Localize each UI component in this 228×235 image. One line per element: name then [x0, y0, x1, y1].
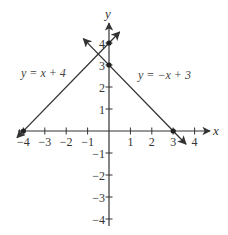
x-axis-label: x: [212, 123, 219, 138]
data-point: [171, 128, 176, 133]
data-point: [21, 128, 26, 133]
coordinate-plane: −4−3−2−112344321−1−2−3−4 x y y = x + 4 y…: [0, 0, 228, 235]
axes: [18, 23, 210, 226]
y-tick-label: −1: [92, 147, 105, 161]
equation-label-line1: y = x + 4: [20, 66, 66, 80]
equation-label-line2: y = −x + 3: [137, 68, 191, 82]
x-tick-label: 1: [127, 135, 133, 149]
x-tick-label: 4: [192, 135, 198, 149]
data-point: [106, 62, 111, 67]
x-tick-label: 3: [170, 135, 176, 149]
data-point: [106, 40, 111, 45]
y-tick-label: −3: [92, 191, 105, 205]
x-tick-label: −2: [60, 135, 73, 149]
y-tick-label: −4: [92, 213, 105, 227]
x-tick-label: −3: [38, 135, 51, 149]
y-tick-label: −2: [92, 169, 105, 183]
y-tick-label: 1: [99, 103, 105, 117]
x-tick-label: 2: [149, 135, 155, 149]
y-axis-label: y: [103, 6, 111, 21]
x-tick-label: −4: [17, 135, 30, 149]
y-tick-label: 2: [99, 81, 105, 95]
